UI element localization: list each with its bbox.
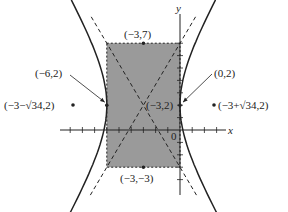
x-axis-label: x — [227, 124, 233, 136]
vertex-left — [105, 103, 109, 107]
y-axis-label: y — [175, 2, 181, 14]
label-top: (−3,7) — [124, 28, 152, 41]
arrow-left-vertex — [70, 75, 105, 102]
hyperbola-diagram: (−3,7) (−3,−3) (−6,2) (0,2) (−3,2) (−3−√… — [0, 0, 288, 212]
arrow-right-vertex — [183, 74, 212, 102]
origin-label: 0 — [171, 130, 177, 142]
label-bottom: (−3,−3) — [120, 172, 154, 185]
point-top — [142, 41, 146, 45]
label-right-vertex: (0,2) — [214, 67, 235, 80]
point-bottom — [142, 165, 146, 169]
label-center: (−3,2) — [146, 99, 174, 112]
label-left-vertex: (−6,2) — [35, 67, 63, 80]
vertex-right — [178, 103, 182, 107]
focus-right — [212, 103, 216, 107]
focus-left — [71, 103, 75, 107]
label-right-focus: (−3+√34,2) — [218, 99, 269, 112]
label-left-focus: (−3−√34,2) — [4, 99, 55, 112]
